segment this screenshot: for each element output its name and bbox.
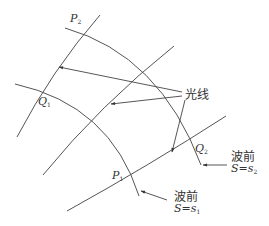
eq-left: S (231, 162, 239, 175)
ray-leader-arrow-1 (59, 67, 182, 92)
eq-subscript: 1 (196, 208, 200, 215)
ray-1 (17, 15, 100, 137)
wavefront-s1-equation: S=s1 (174, 203, 200, 218)
point-label-p2: P2 (70, 13, 81, 28)
eq-subscript: 2 (253, 168, 257, 175)
point-label-q2: Q2 (195, 143, 208, 158)
eq-sign: = (182, 202, 191, 215)
wavefront-s2-label: 波前 S=s2 (231, 151, 257, 178)
eq-left: S (174, 202, 182, 215)
ray-2 (43, 46, 174, 175)
point-subscript: 1 (119, 175, 123, 182)
ray-leader-arrow-2 (111, 96, 182, 104)
wavefront-s1-leader-arrow (141, 191, 167, 200)
point-subscript: 1 (47, 101, 51, 108)
point-letter: Q (195, 142, 204, 155)
ray-3 (67, 116, 226, 211)
wavefront-s2-equation: S=s2 (231, 163, 257, 178)
point-label-q1: Q1 (38, 96, 51, 111)
point-label-p1: P1 (112, 170, 123, 185)
point-subscript: 2 (77, 18, 81, 25)
point-letter: Q (38, 95, 47, 108)
eq-sign: = (239, 162, 248, 175)
wavefront-diagram (0, 0, 269, 226)
wavefront-s1-label: 波前 S=s1 (174, 191, 200, 218)
point-subscript: 2 (204, 148, 208, 155)
ray-label: 光线 (185, 89, 209, 101)
